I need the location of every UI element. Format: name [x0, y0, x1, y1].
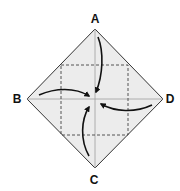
label-c: C [90, 173, 99, 187]
label-b: B [13, 92, 22, 106]
origami-diagram: A B C D [0, 0, 180, 191]
label-a: A [91, 12, 100, 26]
label-d: D [166, 92, 175, 106]
